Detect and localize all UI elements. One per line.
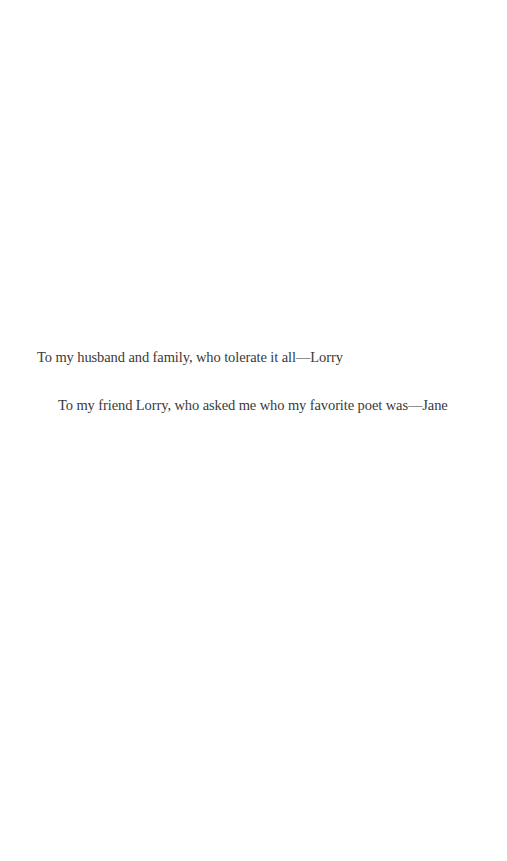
dedication-page: To my husband and family, who tolerate i… <box>0 0 507 861</box>
dedication-line-jane: To my friend Lorry, who asked me who my … <box>58 396 448 414</box>
dedication-line-lorry: To my husband and family, who tolerate i… <box>37 348 343 366</box>
